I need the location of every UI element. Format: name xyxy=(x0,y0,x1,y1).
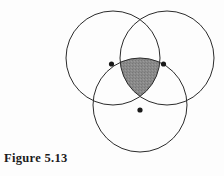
vertex-dot-left xyxy=(109,61,114,66)
three-circle-venn-diagram xyxy=(0,0,224,176)
vertex-dot-right xyxy=(161,61,166,66)
figure-caption: Figure 5.13 xyxy=(4,151,67,166)
figure-container: Figure 5.13 xyxy=(0,0,224,176)
figure-background xyxy=(0,0,224,176)
vertex-dot-bottom xyxy=(137,107,142,112)
